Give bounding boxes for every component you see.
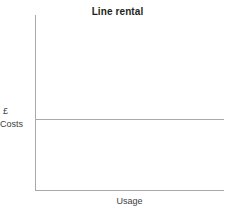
y-axis-label: £ Costs	[0, 105, 32, 131]
x-axis-label: Usage	[35, 195, 224, 207]
line-rental-series-line	[35, 119, 224, 120]
y-axis-name-label: Costs	[0, 118, 32, 131]
x-axis-line	[35, 190, 224, 191]
y-axis-unit-label: £	[0, 105, 32, 118]
y-axis-line	[35, 15, 36, 191]
chart-title: Line rental	[35, 6, 200, 18]
chart-container: Line rental £ Costs Usage	[0, 0, 234, 214]
